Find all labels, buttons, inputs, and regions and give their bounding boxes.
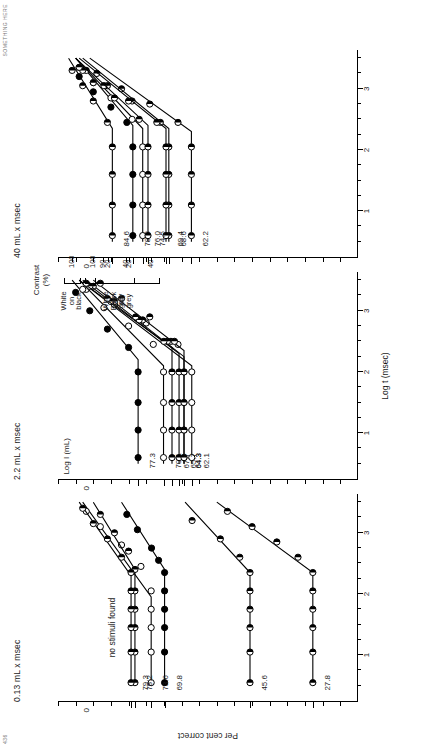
contrast-group-label-line: grey [117,284,125,318]
bracket-cap [159,278,160,284]
data-point [109,232,115,238]
y-axis-minor-tick [164,479,165,484]
data-point [128,624,134,630]
data-point [109,202,115,208]
y-axis-minor-tick [199,701,200,706]
y-axis-tick [172,479,173,486]
y-axis-minor-tick [340,479,341,484]
series-value-label: 67.7 [182,453,191,469]
y-axis-minor-tick [234,479,235,484]
x-axis-tick-label: 2 [362,592,371,596]
y-axis-minor-tick [305,701,306,706]
y-axis-tick [143,257,144,264]
y-axis-minor-tick [234,701,235,706]
y-axis-tick [179,479,180,486]
x-axis-title: Log t (msec) [380,352,390,399]
data-point [104,536,110,542]
y-axis-minor-tick [287,701,288,706]
y-axis-title: Per cent correct [178,731,238,741]
x-axis-tick-label: 1 [362,653,371,657]
y-axis-minor-tick [93,479,94,484]
data-point [90,98,96,104]
y-axis-minor-tick [234,257,235,262]
y-axis-minor-tick [182,257,183,262]
y-axis-minor-tick [287,257,288,262]
y-axis-minor-tick [323,701,324,706]
data-point [128,606,134,612]
series-value-label: 79.3 [141,675,150,691]
y-axis-minor-tick [58,701,59,706]
data-point [128,680,134,686]
y-axis-minor-tick [58,479,59,484]
y-axis-minor-tick [146,479,147,484]
contrast-group-label-line: black [75,284,83,318]
x-axis-tick-label: 3 [362,309,371,313]
y-axis-minor-tick [76,701,77,706]
data-point [128,588,134,594]
data-point [169,427,175,433]
y-axis-tick [166,257,167,264]
data-point [169,399,175,405]
figure: 436 SOMETHING HERE 0.13 mL x msec12369.8… [0,0,436,748]
y-axis-tick-label: 0 [82,486,91,490]
y-axis-tick [250,701,251,708]
contrast-axis: Contrast(%)Blackongrey1004020Whiteongrey… [18,50,58,258]
data-point [109,144,115,150]
y-axis-minor-tick [270,701,271,706]
contrast-tick [108,257,109,262]
fit-line [69,58,113,242]
data-point [128,649,134,655]
y-axis-tick [133,257,134,264]
series-value-label: 84.6 [122,231,131,247]
y-axis-minor-tick [252,479,253,484]
data-point [109,171,115,177]
data-point [133,314,139,320]
y-axis-minor-tick [287,479,288,484]
chart-panel: 0.13 mL x msec12369.845.627.873.678.2no … [58,494,358,702]
contrast-group-label: Whiteonblack [60,284,83,318]
bracket-cap [134,278,135,284]
y-axis-minor-tick [305,257,306,262]
y-axis-minor-tick [199,479,200,484]
contrast-tick [126,257,127,262]
y-axis-minor-tick [217,479,218,484]
y-axis-minor-tick [129,479,130,484]
y-axis-minor-tick [270,479,271,484]
chart-panel: 40 mL x msec12378.862.268.676.069.474.58… [58,50,358,258]
panel-title: 2.2 mL x msec [12,422,22,480]
y-axis-minor-tick [111,479,112,484]
rotated-figure-wrapper: 436 SOMETHING HERE 0.13 mL x msec12369.8… [0,0,436,748]
fit-line [79,502,131,686]
page-header-left: 436 [2,734,8,744]
series-group [58,49,358,257]
y-axis-tick [135,701,136,708]
x-axis-tick-label: 2 [362,148,371,152]
y-axis-tick [151,701,152,708]
data-point [69,67,75,73]
data-point [118,554,124,560]
y-axis-minor-tick [323,479,324,484]
contrast-tick [72,257,73,262]
y-axis-minor-tick [252,257,253,262]
y-axis-tick [313,701,314,708]
log-intensity-label: Log I (mL) [62,438,71,474]
contrast-group-label: Whiteongrey [102,284,125,318]
y-axis-tick [191,257,192,264]
y-axis-minor-tick [76,479,77,484]
contrast-axis-title-line2: (%) [41,260,50,300]
y-axis-tick [131,701,132,708]
panel-title: 0.13 mL x msec [12,640,22,702]
contrast-group-label-line: grey [125,284,133,318]
y-axis-minor-tick [93,701,94,706]
bracket-cap [95,278,96,284]
y-axis-minor-tick [323,257,324,262]
y-axis-minor-tick [305,479,306,484]
y-axis-minor-tick [164,257,165,262]
y-axis-tick [138,479,139,486]
x-axis-tick-label: 2 [362,370,371,374]
y-axis-tick-label: 0 [82,708,91,712]
y-axis-tick [112,257,113,264]
data-point [169,454,175,460]
y-axis-minor-tick [217,257,218,262]
y-axis-minor-tick [252,701,253,706]
